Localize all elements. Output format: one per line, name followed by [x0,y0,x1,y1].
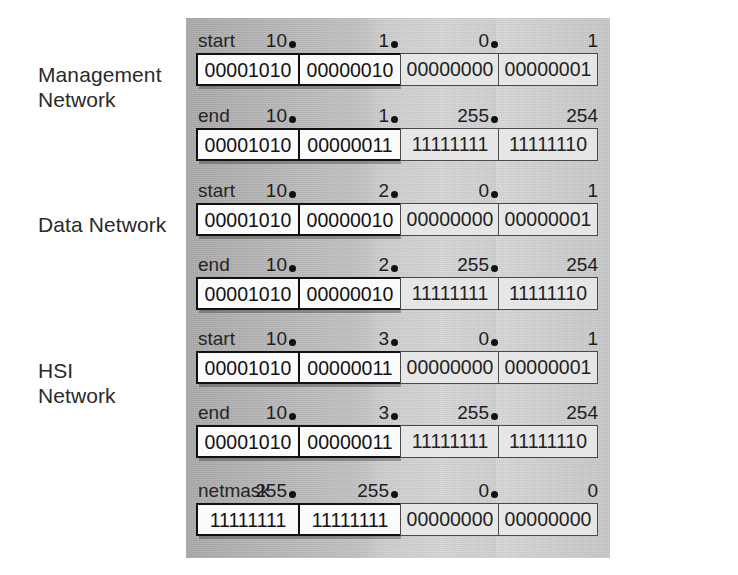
binary-row: 00001010 00000010 11111111 11111110 [196,277,602,310]
octet-separator-dot [491,339,498,346]
decimal-octet-3: 255 [400,400,498,425]
row-group-management-end: end 10 1 255 254 00001010 00000011 11111… [196,103,602,161]
binary-octet-2: 00000011 [298,128,402,161]
octet-separator-dot [491,116,498,123]
decimal-octet-1: 255 [196,478,296,503]
decimal-octet-2: 255 [298,478,398,503]
decimal-octet-4: 1 [500,178,598,203]
binary-row: 00001010 00000011 11111111 11111110 [196,425,602,458]
row-group-data-start: start 10 2 0 1 00001010 00000010 0000000… [196,178,602,236]
octet-separator-dot [391,41,398,48]
binary-octet-4: 00000001 [498,351,598,384]
network-label-management: Management Network [38,62,162,112]
octet-separator-dot [491,491,498,498]
row-header: netmask 255 255 0 0 [196,478,602,503]
decimal-octet-4: 254 [500,400,598,425]
row-group-netmask: netmask 255 255 0 0 11111111 11111111 00… [196,478,602,536]
decimal-octet-3: 255 [400,103,498,128]
decimal-octet-2: 2 [298,252,398,277]
binary-octet-3: 11111111 [400,128,500,161]
row-group-hsi-end: end 10 3 255 254 00001010 00000011 11111… [196,400,602,458]
decimal-octet-4: 254 [500,103,598,128]
binary-octet-1: 00001010 [196,203,300,236]
row-header: start 10 2 0 1 [196,178,602,203]
octet-separator-dot [289,491,296,498]
binary-octet-3: 11111111 [400,277,500,310]
decimal-octet-2: 1 [298,28,398,53]
octet-separator-dot [391,491,398,498]
row-header: start 10 1 0 1 [196,28,602,53]
octet-separator-dot [391,265,398,272]
decimal-octet-2: 2 [298,178,398,203]
binary-octet-3: 00000000 [400,503,500,536]
binary-octet-1: 00001010 [196,425,300,458]
binary-octet-4: 00000000 [498,503,598,536]
binary-row: 11111111 11111111 00000000 00000000 [196,503,602,536]
diagram-canvas: Management Network Data Network HSI Netw… [0,0,738,575]
binary-row: 00001010 00000010 00000000 00000001 [196,203,602,236]
decimal-octet-4: 0 [500,478,598,503]
decimal-octet-1: 10 [196,400,296,425]
binary-octet-3: 00000000 [400,203,500,236]
binary-octet-4: 11111110 [498,425,598,458]
binary-octet-2: 00000011 [298,351,402,384]
row-group-data-end: end 10 2 255 254 00001010 00000010 11111… [196,252,602,310]
binary-octet-2: 00000011 [298,425,402,458]
decimal-octet-3: 0 [400,326,498,351]
binary-octet-3: 00000000 [400,351,500,384]
binary-octet-2: 00000010 [298,53,402,86]
decimal-octet-1: 10 [196,326,296,351]
row-header: end 10 1 255 254 [196,103,602,128]
decimal-octet-4: 1 [500,28,598,53]
row-header: end 10 3 255 254 [196,400,602,425]
binary-octet-4: 00000001 [498,53,598,86]
octet-separator-dot [289,41,296,48]
row-header: end 10 2 255 254 [196,252,602,277]
decimal-octet-3: 0 [400,478,498,503]
octet-separator-dot [491,191,498,198]
row-group-management-start: start 10 1 0 1 00001010 00000010 0000000… [196,28,602,86]
binary-octet-1: 00001010 [196,128,300,161]
decimal-octet-2: 3 [298,400,398,425]
binary-octet-4: 00000001 [498,203,598,236]
decimal-octet-1: 10 [196,178,296,203]
binary-octet-1: 00001010 [196,53,300,86]
row-header: start 10 3 0 1 [196,326,602,351]
binary-octet-3: 00000000 [400,53,500,86]
octet-separator-dot [391,413,398,420]
binary-octet-2: 11111111 [298,503,402,536]
binary-row: 00001010 00000011 11111111 11111110 [196,128,602,161]
network-label-hsi: HSI Network [38,358,116,408]
decimal-octet-3: 255 [400,252,498,277]
binary-octet-3: 11111111 [400,425,500,458]
octet-separator-dot [391,339,398,346]
octet-separator-dot [491,413,498,420]
binary-octet-1: 00001010 [196,351,300,384]
binary-octet-4: 11111110 [498,128,598,161]
binary-row: 00001010 00000011 00000000 00000001 [196,351,602,384]
decimal-octet-3: 0 [400,178,498,203]
binary-octet-2: 00000010 [298,277,402,310]
decimal-octet-3: 0 [400,28,498,53]
octet-separator-dot [491,265,498,272]
octet-separator-dot [289,339,296,346]
binary-octet-4: 11111110 [498,277,598,310]
decimal-octet-1: 10 [196,103,296,128]
octet-separator-dot [391,191,398,198]
octet-separator-dot [491,41,498,48]
decimal-octet-2: 3 [298,326,398,351]
network-label-data: Data Network [38,212,166,237]
binary-row: 00001010 00000010 00000000 00000001 [196,53,602,86]
decimal-octet-1: 10 [196,252,296,277]
binary-octet-1: 11111111 [196,503,300,536]
decimal-octet-4: 254 [500,252,598,277]
octet-separator-dot [289,191,296,198]
decimal-octet-1: 10 [196,28,296,53]
binary-octet-2: 00000010 [298,203,402,236]
octet-separator-dot [391,116,398,123]
decimal-octet-2: 1 [298,103,398,128]
octet-separator-dot [289,413,296,420]
row-group-hsi-start: start 10 3 0 1 00001010 00000011 0000000… [196,326,602,384]
octet-separator-dot [289,116,296,123]
octet-separator-dot [289,265,296,272]
